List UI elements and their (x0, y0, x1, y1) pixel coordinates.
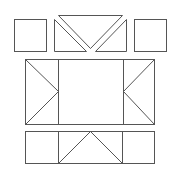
bottom-outer-rect (26, 132, 155, 164)
bottom-center-triangle (59, 132, 123, 164)
bottom-row (26, 132, 155, 164)
middle-outer-rect (26, 60, 155, 125)
middle-left-triangle (26, 60, 59, 125)
middle-row (26, 60, 155, 125)
top-row (15, 16, 167, 52)
top-inverted-triangle (59, 16, 123, 49)
top-right-square (135, 20, 167, 52)
top-right-triangle (96, 20, 127, 52)
top-left-square (15, 20, 47, 52)
top-left-triangle (55, 20, 87, 52)
box-net-diagram (0, 0, 172, 171)
middle-right-triangle (124, 60, 155, 125)
